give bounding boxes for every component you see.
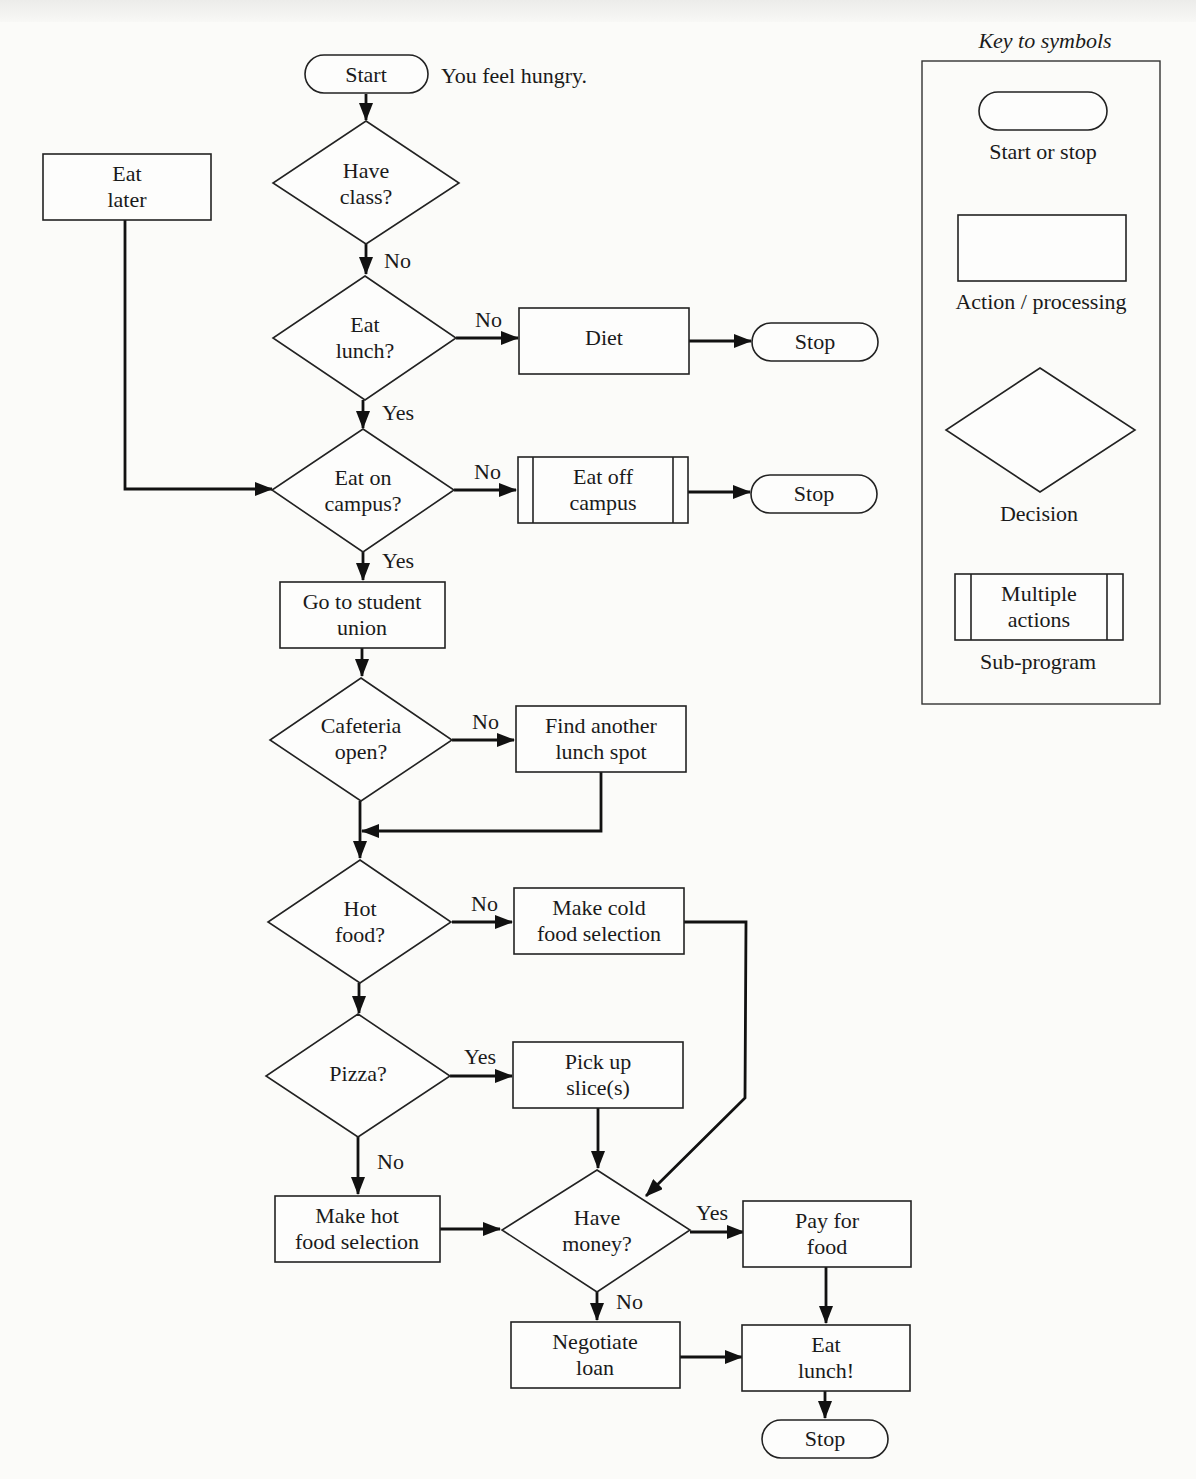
node-hot-food-line1: Hot bbox=[344, 896, 377, 921]
label-have-class-no: No bbox=[384, 248, 411, 273]
node-eat-lunch-line1: Eat bbox=[350, 312, 379, 337]
node-hot-selection-line1: Make hot bbox=[315, 1203, 399, 1228]
label-pizza-yes: Yes bbox=[464, 1044, 496, 1069]
node-eat-lunch-line2: lunch? bbox=[336, 338, 395, 363]
node-cold-line2: food selection bbox=[537, 921, 661, 946]
key-subprogram-inner-line1: Multiple bbox=[1001, 581, 1077, 606]
node-eat-final-line1: Eat bbox=[811, 1332, 840, 1357]
node-cafeteria-line2: open? bbox=[335, 739, 388, 764]
node-pizza: Pizza? bbox=[266, 1014, 450, 1137]
node-eat-off-campus-line1: Eat off bbox=[573, 464, 634, 489]
node-start: Start bbox=[305, 55, 428, 93]
node-eat-later-line2: later bbox=[107, 187, 147, 212]
key-decision-symbol bbox=[946, 368, 1135, 492]
key-process-label: Action / processing bbox=[955, 289, 1126, 314]
node-cold-line1: Make cold bbox=[552, 895, 645, 920]
label-eat-lunch-yes: Yes bbox=[382, 400, 414, 425]
label-eat-lunch-no: No bbox=[475, 307, 502, 332]
node-go-union: Go to student union bbox=[280, 582, 445, 648]
node-eat-final-line2: lunch! bbox=[798, 1358, 854, 1383]
node-have-class-line2: class? bbox=[340, 184, 393, 209]
node-pick-slice: Pick up slice(s) bbox=[513, 1042, 683, 1108]
node-stop-diet: Stop bbox=[752, 323, 878, 361]
node-cafeteria-line1: Cafeteria bbox=[321, 713, 402, 738]
label-eat-on-campus-yes: Yes bbox=[382, 548, 414, 573]
node-stop-diet-text: Stop bbox=[795, 329, 835, 354]
node-cafeteria-open: Cafeteria open? bbox=[270, 678, 452, 801]
node-go-union-line1: Go to student bbox=[303, 589, 422, 614]
node-hot-food: Hot food? bbox=[268, 860, 451, 983]
label-cafeteria-no: No bbox=[472, 709, 499, 734]
node-eat-on-campus: Eat on campus? bbox=[272, 429, 454, 552]
label-have-money-yes: Yes bbox=[696, 1200, 728, 1225]
start-note: You feel hungry. bbox=[441, 63, 587, 88]
node-eat-on-campus-line1: Eat on bbox=[335, 465, 392, 490]
node-pick-slice-line2: slice(s) bbox=[566, 1075, 630, 1100]
key-subprogram-label: Sub-program bbox=[980, 649, 1096, 674]
node-find-spot-line1: Find another bbox=[545, 713, 657, 738]
edge-eat-later-eat-on-campus bbox=[125, 220, 272, 489]
node-pick-slice-line1: Pick up bbox=[565, 1049, 632, 1074]
node-pay-food-line2: food bbox=[807, 1234, 847, 1259]
key-terminal-symbol bbox=[979, 92, 1107, 130]
symbol-key: Key to symbols Start or stop Action / pr… bbox=[922, 28, 1160, 704]
node-eat-later-line1: Eat bbox=[112, 161, 141, 186]
node-eat-later: Eat later bbox=[43, 154, 211, 220]
node-stop-off-campus: Stop bbox=[751, 475, 877, 513]
node-have-money-line2: money? bbox=[562, 1231, 632, 1256]
key-subprogram-symbol: Multiple actions bbox=[955, 574, 1123, 640]
key-terminal-label: Start or stop bbox=[989, 139, 1097, 164]
node-negotiate-loan: Negotiate loan bbox=[511, 1322, 680, 1388]
label-eat-on-campus-no: No bbox=[474, 459, 501, 484]
key-process-symbol bbox=[958, 215, 1126, 281]
node-go-union-line2: union bbox=[337, 615, 387, 640]
node-diet-text: Diet bbox=[585, 325, 623, 350]
node-diet: Diet bbox=[519, 308, 689, 374]
node-eat-lunch: Eat lunch? bbox=[273, 276, 456, 400]
node-eat-on-campus-line2: campus? bbox=[325, 491, 402, 516]
node-stop-off-campus-text: Stop bbox=[794, 481, 834, 506]
node-hot-selection: Make hot food selection bbox=[275, 1196, 440, 1262]
node-pay-food-line1: Pay for bbox=[795, 1208, 860, 1233]
key-title: Key to symbols bbox=[977, 28, 1111, 53]
node-have-money-line1: Have bbox=[574, 1205, 620, 1230]
label-have-money-no: No bbox=[616, 1289, 643, 1314]
edge-find-spot-merge bbox=[362, 772, 601, 831]
node-pizza-text: Pizza? bbox=[329, 1061, 386, 1086]
label-pizza-no: No bbox=[377, 1149, 404, 1174]
node-hot-selection-line2: food selection bbox=[295, 1229, 419, 1254]
node-loan-line2: loan bbox=[576, 1355, 614, 1380]
flowchart: Start You feel hungry. Have class? No Ea… bbox=[0, 0, 1196, 1479]
node-find-spot-line2: lunch spot bbox=[555, 739, 646, 764]
node-have-class: Have class? bbox=[273, 121, 459, 244]
node-pay-food: Pay for food bbox=[743, 1201, 911, 1267]
key-subprogram-inner-line2: actions bbox=[1008, 607, 1070, 632]
node-eat-off-campus-line2: campus bbox=[569, 490, 636, 515]
label-hot-food-no: No bbox=[471, 891, 498, 916]
node-loan-line1: Negotiate bbox=[552, 1329, 638, 1354]
node-eat-lunch-final: Eat lunch! bbox=[742, 1325, 910, 1391]
node-find-spot: Find another lunch spot bbox=[516, 706, 686, 772]
node-hot-food-line2: food? bbox=[335, 922, 385, 947]
key-decision-label: Decision bbox=[1000, 501, 1078, 526]
node-have-class-line1: Have bbox=[343, 158, 389, 183]
node-start-text: Start bbox=[345, 62, 387, 87]
node-cold-selection: Make cold food selection bbox=[514, 888, 684, 954]
node-stop-final: Stop bbox=[762, 1420, 888, 1458]
node-have-money: Have money? bbox=[502, 1170, 690, 1292]
node-eat-off-campus: Eat off campus bbox=[518, 457, 688, 523]
node-stop-final-text: Stop bbox=[805, 1426, 845, 1451]
